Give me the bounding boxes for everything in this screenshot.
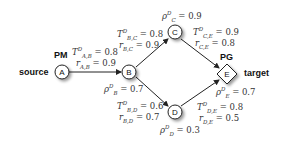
edge-bd-reliability: rB,D = 0.7	[119, 113, 159, 124]
node-b-label: B	[126, 68, 131, 77]
rho-e: ρDE = 0.7	[216, 87, 255, 99]
rho-d: ρDD = 0.3	[160, 125, 200, 137]
node-a-label: A	[59, 68, 65, 77]
edge-ce-reliability: rC,E = 0.8	[195, 39, 235, 50]
rho-b: ρDB = 0.7	[104, 84, 144, 96]
node-e-label: E	[224, 70, 229, 79]
node-d-label: D	[172, 108, 178, 117]
pg-label: PG	[220, 53, 233, 62]
target-label: target	[244, 69, 269, 78]
source-label: source	[19, 68, 49, 77]
pm-label: PM	[54, 51, 68, 60]
edge-de-reliability: rD,E = 0.5	[199, 114, 239, 125]
edge-ab-reliability: rA,B = 0.9	[76, 59, 116, 70]
node-c-label: C	[172, 28, 178, 37]
edge-bc-reliability: rB,C = 0.9	[119, 41, 159, 52]
rho-c: ρDC = 0.9	[162, 11, 202, 23]
